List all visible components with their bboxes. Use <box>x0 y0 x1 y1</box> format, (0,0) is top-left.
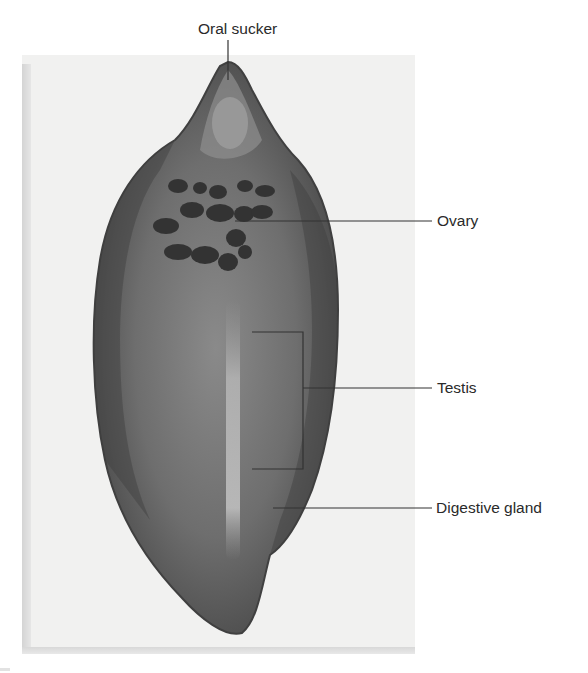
label-digestive-gland: Digestive gland <box>436 499 542 517</box>
label-oral-sucker: Oral sucker <box>198 20 277 38</box>
label-testis: Testis <box>437 379 477 397</box>
fluke-specimen-illustration <box>0 0 588 673</box>
label-ovary: Ovary <box>437 212 478 230</box>
page-edge-mark <box>0 668 10 671</box>
